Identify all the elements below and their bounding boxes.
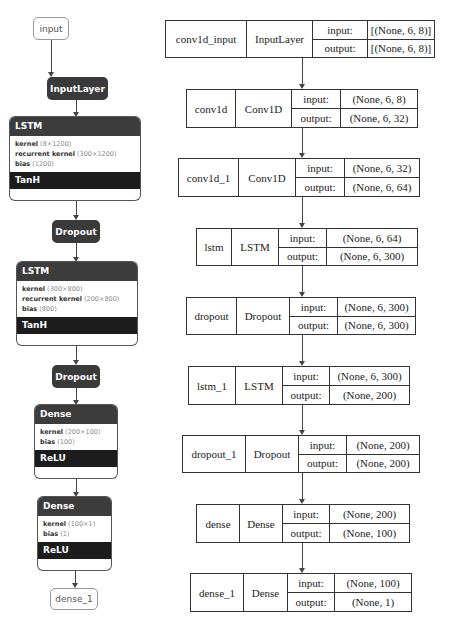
- node-title: Dense: [38, 497, 111, 516]
- output-label: output:: [288, 593, 334, 611]
- layer-name: conv1d: [187, 90, 236, 127]
- output-shape: (None, 6, 64): [345, 178, 419, 196]
- input-label: input:: [292, 90, 340, 109]
- param-shape: (100): [57, 438, 74, 446]
- activation-label: TanH: [17, 317, 137, 334]
- node-title: LSTM: [10, 117, 140, 136]
- param-shape: (100×1): [68, 520, 95, 528]
- dense-node-2[interactable]: Dense kernel (100×1) bias (1) ReLU: [38, 497, 111, 570]
- layer-type: LSTM: [232, 229, 279, 265]
- layer-name: dropout_1: [183, 436, 246, 472]
- layer-name: lstm_1: [189, 367, 236, 404]
- output-label: output:: [283, 524, 329, 542]
- output-label: output:: [279, 248, 326, 266]
- param-name: kernel: [40, 428, 63, 436]
- layer-type: Dense: [244, 574, 288, 611]
- output-label: output:: [296, 178, 344, 196]
- param-shape: (1): [60, 530, 69, 538]
- input-shape: (None, 6, 300): [330, 367, 409, 386]
- layer-type: InputLayer: [247, 21, 313, 57]
- output-shape: (None, 100): [330, 524, 409, 542]
- input-shape: (None, 100): [335, 574, 411, 593]
- layer-box-dropout-1[interactable]: dropout_1 Dropout input:output: (None, 2…: [182, 435, 420, 473]
- layer-name: conv1d_1: [179, 159, 239, 196]
- param-name: kernel: [43, 520, 66, 528]
- layer-box-conv1d-input[interactable]: conv1d_input InputLayer input:output: [(…: [165, 20, 435, 58]
- input-shape: (None, 6, 32): [345, 159, 419, 178]
- input-shape: (None, 200): [330, 505, 409, 524]
- layer-box-dropout[interactable]: dropout Dropout input:output: (None, 6, …: [186, 297, 416, 335]
- output-label: output:: [313, 40, 367, 58]
- output-shape: (None, 6, 300): [338, 317, 415, 335]
- dropout-node-2[interactable]: Dropout: [52, 365, 100, 388]
- layer-box-dense[interactable]: dense Dense input:output: (None, 200)(No…: [196, 504, 410, 543]
- layer-type: Dense: [240, 505, 283, 542]
- activation-label: TanH: [10, 172, 140, 189]
- output-label: output:: [292, 109, 340, 127]
- layer-name: lstm: [197, 229, 232, 265]
- layer-type: Dropout: [246, 436, 299, 472]
- param-shape: (300×800): [47, 285, 82, 293]
- output-label: output:: [290, 317, 337, 335]
- param-name: recurrent kernel: [22, 295, 82, 303]
- param-shape: (300×1200): [77, 150, 116, 158]
- output-label: output:: [283, 386, 329, 404]
- output-shape: (None, 200): [330, 386, 409, 404]
- param-name: bias: [15, 160, 30, 168]
- input-label: input:: [283, 367, 329, 386]
- activation-label: ReLU: [38, 542, 111, 559]
- param-shape: (200×800): [84, 295, 119, 303]
- param-shape: (8×1200): [40, 140, 71, 148]
- param-shape: (200×100): [65, 428, 100, 436]
- node-title: Dense: [35, 405, 117, 424]
- output-label: output:: [299, 455, 346, 473]
- input-node[interactable]: input: [33, 17, 69, 40]
- layer-box-lstm-1[interactable]: lstm_1 LSTM input:output: (None, 6, 300)…: [188, 366, 410, 405]
- layer-box-lstm[interactable]: lstm LSTM input:output: (None, 6, 64)(No…: [196, 228, 418, 266]
- output-shape: [(None, 6, 8)]: [368, 40, 434, 58]
- layer-type: Conv1D: [236, 90, 292, 127]
- input-shape: (None, 6, 300): [338, 298, 415, 317]
- param-name: bias: [43, 530, 58, 538]
- param-name: bias: [40, 438, 55, 446]
- input-label: input:: [290, 298, 337, 317]
- output-shape: (None, 6, 300): [327, 248, 417, 266]
- input-shape: (None, 6, 8): [341, 90, 417, 109]
- dropout-node-1[interactable]: Dropout: [52, 220, 100, 243]
- output-node[interactable]: dense_1: [50, 588, 98, 610]
- input-label: input:: [283, 505, 329, 524]
- layer-box-conv1d[interactable]: conv1d Conv1D input:output: (None, 6, 8)…: [186, 89, 418, 128]
- layer-name: dense: [197, 505, 240, 542]
- lstm-node-2[interactable]: LSTM kernel (300×800) recurrent kernel (…: [17, 262, 137, 345]
- output-shape: (None, 200): [347, 455, 419, 473]
- output-shape: (None, 6, 32): [341, 109, 417, 127]
- output-shape: (None, 1): [335, 593, 411, 611]
- layer-type: Conv1D: [239, 159, 296, 196]
- layer-box-dense-1[interactable]: dense_1 Dense input:output: (None, 100)(…: [190, 573, 412, 612]
- input-shape: (None, 200): [347, 436, 419, 455]
- layer-name: dropout: [187, 298, 237, 334]
- node-title: LSTM: [17, 262, 137, 281]
- input-label: input:: [288, 574, 334, 593]
- layer-type: LSTM: [236, 367, 283, 404]
- layer-name: dense_1: [191, 574, 244, 611]
- activation-label: ReLU: [35, 450, 117, 467]
- param-name: recurrent kernel: [15, 150, 75, 158]
- input-label: input:: [279, 229, 326, 248]
- input-label: input:: [313, 21, 367, 40]
- param-shape: (800): [39, 305, 56, 313]
- param-name: bias: [22, 305, 37, 313]
- param-name: kernel: [22, 285, 45, 293]
- input-shape: (None, 6, 64): [327, 229, 417, 248]
- dense-node-1[interactable]: Dense kernel (200×100) bias (100) ReLU: [35, 405, 117, 478]
- layer-type: Dropout: [237, 298, 290, 334]
- layer-box-conv1d-1[interactable]: conv1d_1 Conv1D input:output: (None, 6, …: [178, 158, 420, 197]
- param-shape: (1200): [32, 160, 54, 168]
- param-name: kernel: [15, 140, 38, 148]
- input-label: input:: [296, 159, 344, 178]
- lstm-node-1[interactable]: LSTM kernel (8×1200) recurrent kernel (3…: [10, 117, 140, 200]
- input-shape: [(None, 6, 8)]: [368, 21, 434, 40]
- input-layer-node[interactable]: InputLayer: [47, 77, 108, 100]
- layer-name: conv1d_input: [166, 21, 247, 57]
- input-label: input:: [299, 436, 346, 455]
